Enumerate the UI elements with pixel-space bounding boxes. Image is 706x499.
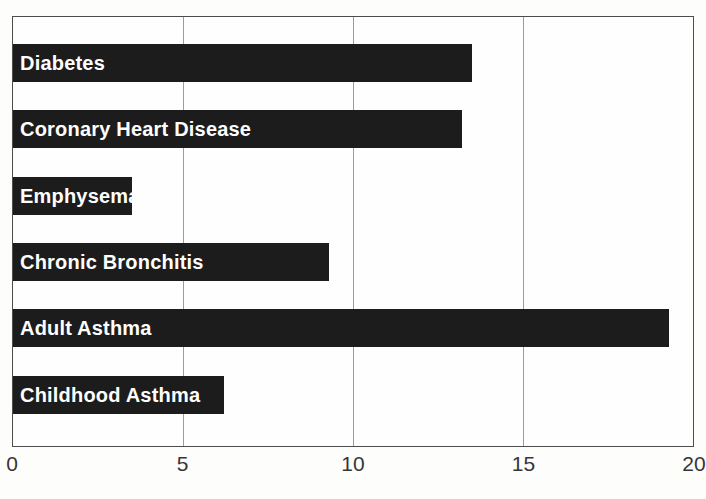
bar-label-coronary-heart-disease: Coronary Heart Disease xyxy=(13,119,251,139)
bar-label-childhood-asthma: Childhood Asthma xyxy=(13,385,200,405)
bars-container: DiabetesCoronary Heart DiseaseEmphysemaC… xyxy=(13,30,693,428)
bar-label-adult-asthma: Adult Asthma xyxy=(13,318,152,338)
bar-label-chronic-bronchitis: Chronic Bronchitis xyxy=(13,252,204,272)
x-tick-label-20: 20 xyxy=(682,451,705,476)
x-tick-label-15: 15 xyxy=(512,451,535,476)
x-tick-label-0: 0 xyxy=(6,451,18,476)
x-tick-label-5: 5 xyxy=(177,451,189,476)
bar-coronary-heart-disease: Coronary Heart Disease xyxy=(13,110,462,148)
bar-adult-asthma: Adult Asthma xyxy=(13,309,669,347)
category-band-adult-asthma: Adult Asthma xyxy=(13,295,693,361)
bar-label-emphysema: Emphysema xyxy=(13,186,140,206)
category-band-coronary-heart-disease: Coronary Heart Disease xyxy=(13,96,693,162)
x-tick-label-10: 10 xyxy=(341,451,364,476)
plot-area: DiabetesCoronary Heart DiseaseEmphysemaC… xyxy=(12,16,694,447)
bar-chronic-bronchitis: Chronic Bronchitis xyxy=(13,243,329,281)
x-axis-tick-labels: 05101520 xyxy=(12,451,694,479)
bar-diabetes: Diabetes xyxy=(13,44,472,82)
category-band-chronic-bronchitis: Chronic Bronchitis xyxy=(13,229,693,295)
category-band-emphysema: Emphysema xyxy=(13,163,693,229)
bar-label-diabetes: Diabetes xyxy=(13,53,105,73)
category-band-diabetes: Diabetes xyxy=(13,30,693,96)
bar-emphysema: Emphysema xyxy=(13,177,132,215)
bar-childhood-asthma: Childhood Asthma xyxy=(13,376,224,414)
category-band-childhood-asthma: Childhood Asthma xyxy=(13,362,693,428)
